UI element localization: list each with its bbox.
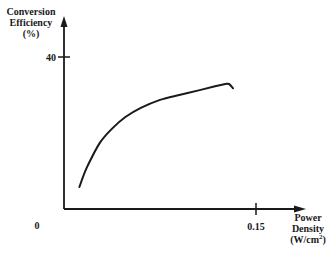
x-axis-unit-main: (W/cm xyxy=(290,234,319,245)
y-axis-label-line2: Efficiency xyxy=(0,17,62,28)
y-axis-label-line3: (%) xyxy=(0,28,62,39)
x-axis-label-line3: (W/cm2) xyxy=(280,234,335,245)
x-tick-label-origin: 0 xyxy=(31,220,43,231)
x-axis-label-line2: Density xyxy=(280,223,335,234)
x-axis-unit-end: ) xyxy=(323,234,326,245)
x-axis-label: Power Density (W/cm2) xyxy=(280,212,335,245)
y-tick-label-40: 40 xyxy=(36,52,56,63)
x-axis-label-line1: Power xyxy=(280,212,335,223)
y-axis-label-line1: Conversion xyxy=(0,6,62,17)
y-axis-label: Conversion Efficiency (%) xyxy=(0,6,62,39)
x-tick-label-015: 0.15 xyxy=(240,221,272,232)
efficiency-curve xyxy=(79,84,233,187)
